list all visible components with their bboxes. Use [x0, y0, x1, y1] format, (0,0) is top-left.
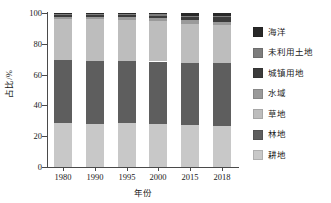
- legend-item[interactable]: 水域: [253, 87, 286, 101]
- y-axis-tick-label: 80: [16, 40, 42, 49]
- y-axis-line: [47, 12, 48, 168]
- bar-segment[interactable]: [118, 15, 136, 17]
- legend-swatch: [253, 109, 263, 119]
- bar-segment[interactable]: [86, 61, 104, 124]
- x-axis-title: 年份: [47, 186, 238, 198]
- bar-segment[interactable]: [118, 13, 136, 14]
- legend-item[interactable]: 海洋: [253, 25, 286, 39]
- bar-segment[interactable]: [213, 16, 231, 17]
- y-axis-tick-label: 20: [16, 132, 42, 141]
- plot-area: [47, 13, 238, 167]
- bar-segment[interactable]: [149, 124, 167, 167]
- bar-stack[interactable]: [213, 13, 231, 167]
- y-axis-tick: [42, 167, 47, 168]
- legend-swatch: [253, 150, 263, 160]
- x-axis-tick: [190, 167, 191, 171]
- x-axis-line: [47, 167, 239, 168]
- bar-segment[interactable]: [181, 16, 199, 20]
- legend-item[interactable]: 城镇用地: [253, 66, 304, 80]
- y-axis-tick-label: 60: [16, 71, 42, 80]
- bar-stack[interactable]: [181, 13, 199, 167]
- bar-segment[interactable]: [118, 14, 136, 15]
- bar-segment[interactable]: [213, 13, 231, 16]
- y-axis-title: 占比/%: [2, 54, 14, 114]
- legend-swatch: [253, 130, 263, 140]
- bar-segment[interactable]: [54, 19, 72, 60]
- y-axis-tick-label: 0: [16, 163, 42, 172]
- legend-item[interactable]: 草地: [253, 107, 286, 121]
- bar-stack[interactable]: [118, 13, 136, 167]
- legend-item[interactable]: 未利用土地: [253, 46, 313, 60]
- legend-label: 城镇用地: [268, 69, 304, 78]
- bar-stack[interactable]: [86, 13, 104, 167]
- x-axis-tick: [222, 167, 223, 171]
- y-axis-tick-label: 100: [16, 9, 42, 18]
- bar-segment[interactable]: [213, 22, 231, 26]
- y-axis-tick: [42, 75, 47, 76]
- bar-segment[interactable]: [54, 17, 72, 19]
- bar-segment[interactable]: [149, 16, 167, 18]
- bar-segment[interactable]: [54, 15, 72, 16]
- legend-item[interactable]: 耕地: [253, 148, 286, 162]
- bar-segment[interactable]: [54, 123, 72, 167]
- bar-segment[interactable]: [213, 126, 231, 167]
- legend-label: 未利用土地: [268, 48, 313, 57]
- legend-label: 林地: [268, 130, 286, 139]
- y-axis-tick: [42, 105, 47, 106]
- legend-swatch: [253, 48, 263, 58]
- bar-segment[interactable]: [149, 21, 167, 62]
- legend-swatch: [253, 89, 263, 99]
- stacked-bar-chart: 020406080100 占比/% 年份 海洋未利用土地城镇用地水域草地林地耕地…: [0, 0, 331, 203]
- bar-segment[interactable]: [86, 13, 104, 14]
- bar-segment[interactable]: [86, 17, 104, 19]
- bar-segment[interactable]: [86, 14, 104, 15]
- y-axis-tick: [42, 13, 47, 14]
- bar-segment[interactable]: [181, 24, 199, 64]
- bar-segment[interactable]: [149, 14, 167, 15]
- x-axis-tick: [63, 167, 64, 171]
- chart-legend: 海洋未利用土地城镇用地水域草地林地耕地: [253, 25, 331, 175]
- bar-segment[interactable]: [213, 25, 231, 63]
- legend-item[interactable]: 林地: [253, 128, 286, 142]
- legend-label: 水域: [268, 89, 286, 98]
- y-axis-tick-labels: 020406080100: [12, 0, 42, 203]
- legend-label: 海洋: [268, 28, 286, 37]
- x-axis-tick: [158, 167, 159, 171]
- bar-segment[interactable]: [118, 20, 136, 61]
- bar-segment[interactable]: [54, 60, 72, 123]
- y-axis-tick-label: 40: [16, 101, 42, 110]
- bar-stack[interactable]: [149, 13, 167, 167]
- legend-label: 耕地: [268, 151, 286, 160]
- bar-segment[interactable]: [149, 18, 167, 21]
- bar-segment[interactable]: [149, 13, 167, 14]
- x-axis-tick: [95, 167, 96, 171]
- bar-segment[interactable]: [86, 19, 104, 60]
- bar-segment[interactable]: [86, 124, 104, 167]
- bar-segment[interactable]: [54, 13, 72, 14]
- bar-segment[interactable]: [118, 17, 136, 20]
- bar-segment[interactable]: [213, 17, 231, 22]
- legend-label: 草地: [268, 110, 286, 119]
- legend-swatch: [253, 68, 263, 78]
- bar-stack[interactable]: [54, 13, 72, 167]
- bar-segment[interactable]: [86, 15, 104, 17]
- bar-segment[interactable]: [54, 14, 72, 15]
- bar-segment[interactable]: [181, 63, 199, 125]
- y-axis-tick: [42, 44, 47, 45]
- x-axis-tick-label: 2018: [202, 173, 242, 182]
- legend-swatch: [253, 27, 263, 37]
- bar-segment[interactable]: [213, 63, 231, 126]
- y-axis-tick: [42, 136, 47, 137]
- bar-segment[interactable]: [149, 62, 167, 125]
- bar-segment[interactable]: [181, 20, 199, 23]
- bar-segment[interactable]: [181, 16, 199, 17]
- bar-segment[interactable]: [118, 61, 136, 124]
- bar-segment[interactable]: [181, 125, 199, 167]
- bar-segment[interactable]: [181, 13, 199, 16]
- bar-segment[interactable]: [118, 123, 136, 167]
- x-axis-tick: [127, 167, 128, 171]
